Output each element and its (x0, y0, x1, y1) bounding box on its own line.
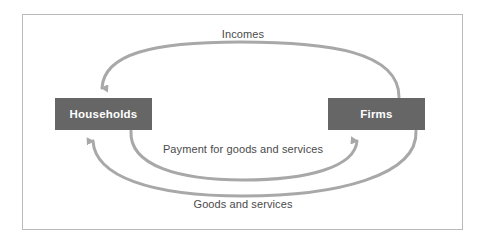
node-households-label: Households (70, 108, 138, 120)
arrow-goods-and-services (93, 131, 416, 196)
circular-flow-diagram: Households Firms Incomes Payment for goo… (0, 0, 486, 244)
flow-label-incomes: Incomes (0, 28, 486, 40)
arrow-incomes (102, 42, 399, 97)
node-households[interactable]: Households (55, 98, 152, 130)
node-firms-label: Firms (360, 108, 392, 120)
flow-label-payment: Payment for goods and services (0, 143, 486, 155)
node-firms[interactable]: Firms (328, 98, 425, 130)
flow-label-goods-and-services: Goods and services (0, 198, 486, 210)
arrow-payment (131, 131, 357, 180)
